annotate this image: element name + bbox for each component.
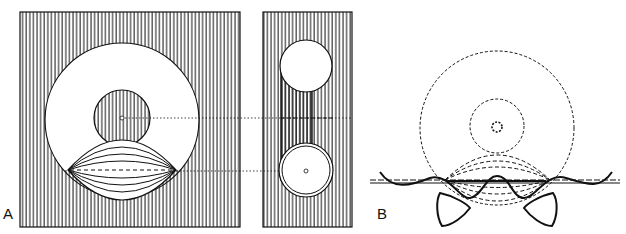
panel-label-a: A bbox=[3, 205, 13, 222]
panel-a-side-view bbox=[263, 12, 352, 227]
figure-canvas bbox=[0, 0, 626, 234]
panel-label-b: B bbox=[377, 205, 387, 222]
panel-b-diagram bbox=[370, 51, 620, 226]
